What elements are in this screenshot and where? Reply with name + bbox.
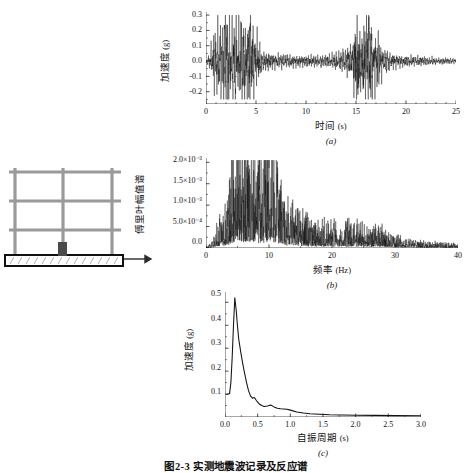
chart-b-plot-area — [206, 158, 458, 248]
chart-c-sub-label: (c) — [318, 448, 328, 458]
chart-c-x-axis-title: 自振周期 (s) — [297, 434, 348, 444]
chart-b-xtick-4: 40 — [454, 252, 462, 260]
chart-b-xtick-3: 30 — [391, 252, 399, 260]
chart-panel-c: 加速度 (g) 0.5 0.4 0.3 0.2 0.1 0.0 0.5 1.0 … — [180, 288, 440, 453]
base-excitation-block — [58, 242, 67, 256]
chart-c-series — [225, 292, 421, 417]
chart-a-ytick-5: -0.2 — [174, 88, 202, 96]
chart-a-xtick-3: 15 — [352, 108, 360, 116]
figure-caption: 图2-3 实测地震波记录及反应谱 — [164, 458, 307, 473]
chart-b-xtick-0: 0 — [204, 252, 208, 260]
chart-a-xtick-5: 25 — [452, 108, 460, 116]
chart-c-xtick-3: 1.5 — [318, 421, 328, 429]
chart-c-ytick-3: 0.4 — [197, 315, 221, 323]
chart-a-ytick-0: 0.3 — [174, 11, 202, 19]
chart-panel-a: 加速度 (g) 0.3 0.2 0.1 0.0 -0.1 -0.2 0 5 10… — [156, 6, 466, 146]
chart-c-ytick-0: 0.1 — [197, 388, 221, 396]
chart-b-xtick-1: 10 — [265, 252, 273, 260]
chart-a-series — [206, 12, 456, 104]
chart-a-xtick-2: 10 — [302, 108, 310, 116]
chart-a-y-axis-title: 加速度 (g) — [161, 40, 171, 82]
chart-a-x-axis-title: 时间 (s) — [315, 122, 346, 132]
chart-a-sub-label: (a) — [326, 136, 337, 146]
chart-b-x-axis-title: 频率 (Hz) — [313, 266, 351, 276]
chart-c-xtick-4: 2.0 — [351, 421, 361, 429]
chart-a-xtick-1: 5 — [254, 108, 258, 116]
chart-c-y-axis-title: 加速度 (g) — [185, 329, 195, 371]
frame-beams — [9, 172, 121, 230]
chart-b-y-axis-title: 傅里叶幅值谱 — [136, 174, 146, 234]
frame-structure-diagram — [0, 160, 150, 270]
chart-c-ytick-2: 0.3 — [197, 339, 221, 347]
chart-b-ytick-4: 2.0×10⁻³ — [150, 156, 202, 164]
chart-c-plot-area — [225, 292, 421, 417]
chart-a-ytick-1: 0.2 — [174, 26, 202, 34]
chart-c-xtick-1: 0.5 — [253, 421, 263, 429]
chart-c-xtick-6: 3.0 — [416, 421, 426, 429]
chart-a-xtick-4: 20 — [402, 108, 410, 116]
chart-b-ytick-0: 0.0 — [150, 238, 202, 246]
chart-b-ytick-2: 1.0×10⁻³ — [150, 197, 202, 205]
chart-b-ytick-3: 1.5×10⁻³ — [150, 177, 202, 185]
chart-c-ytick-1: 0.2 — [197, 364, 221, 372]
chart-a-ytick-3: 0.0 — [174, 57, 202, 65]
chart-b-series — [206, 158, 458, 248]
chart-a-xtick-0: 0 — [204, 108, 208, 116]
frame-base-slab — [5, 255, 123, 266]
chart-b-ytick-1: 5.0×10⁻⁴ — [150, 218, 202, 226]
chart-c-xtick-5: 2.5 — [383, 421, 393, 429]
chart-a-ytick-4: -0.1 — [174, 73, 202, 81]
chart-a-ytick-2: 0.1 — [174, 42, 202, 50]
chart-a-plot-area — [206, 12, 456, 104]
chart-panel-b: 傅里叶幅值谱 2.0×10⁻³ 1.5×10⁻³ 1.0×10⁻³ 5.0×10… — [130, 152, 470, 292]
frame-structure-svg — [0, 160, 150, 270]
chart-c-xtick-2: 1.0 — [285, 421, 295, 429]
chart-b-xtick-2: 20 — [328, 252, 336, 260]
chart-c-ytick-4: 0.5 — [197, 290, 221, 298]
chart-c-xtick-0: 0.0 — [220, 421, 230, 429]
